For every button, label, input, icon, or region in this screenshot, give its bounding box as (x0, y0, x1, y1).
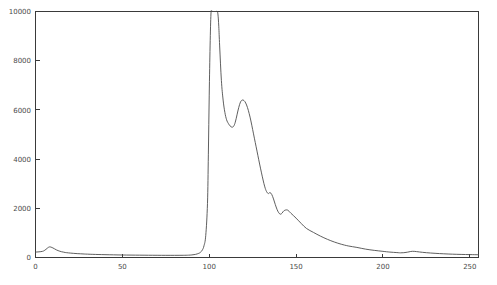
x-axis-ticks: 050100150200250 (33, 254, 476, 271)
series-intensity-line (36, 11, 479, 256)
data-series-group (36, 11, 479, 256)
y-tick-label: 4000 (13, 156, 31, 164)
x-tick-label: 50 (118, 263, 127, 271)
y-tick-label: 8000 (13, 57, 31, 65)
x-tick-label: 150 (289, 263, 302, 271)
chart-figure: 0200040006000800010000 050100150200250 (0, 0, 497, 285)
x-tick-label: 250 (463, 263, 476, 271)
y-tick-label: 2000 (13, 205, 31, 213)
x-tick-label: 0 (33, 263, 37, 271)
x-tick-label: 200 (376, 263, 389, 271)
x-tick-label: 100 (203, 263, 216, 271)
y-axis-ticks: 0200040006000800010000 (9, 8, 40, 262)
axes-frame (36, 12, 479, 258)
chart-canvas: 0200040006000800010000 050100150200250 (0, 0, 497, 285)
y-tick-label: 6000 (13, 107, 31, 115)
plot-frame (36, 12, 479, 258)
y-tick-label: 0 (27, 254, 31, 262)
y-tick-label: 10000 (9, 8, 31, 16)
